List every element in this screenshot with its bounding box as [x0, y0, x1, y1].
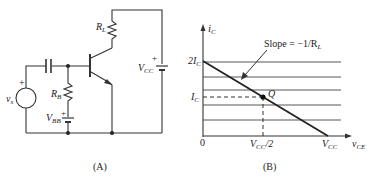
vbb-label: VBB: [46, 112, 61, 125]
source-polarity: +: [19, 77, 25, 88]
load-resistor-label: RL: [95, 21, 106, 34]
x-tick-vcc: VCC: [322, 138, 338, 151]
vcc-polarity: +: [152, 53, 157, 63]
emitter-wire: [110, 83, 112, 133]
q-point-dot: [260, 94, 265, 99]
circuit-diagram: + vs RB + VBB + VCC RL (A): [6, 10, 168, 173]
x-axis-label: vCE: [352, 138, 366, 151]
figure-a-caption: (A): [93, 161, 107, 173]
load-line: [203, 61, 328, 136]
slope-annotation: Slope = −1/RL: [264, 38, 322, 51]
ground-node-dot: [66, 131, 70, 135]
source-label: vs: [6, 93, 13, 106]
y-tick-ic: IC: [190, 91, 199, 104]
vbb-polarity: +: [61, 108, 66, 118]
figure-b-caption: (B): [263, 161, 276, 173]
ground-node-dot: [110, 131, 114, 135]
y-tick-2ic: 2IC: [188, 55, 201, 68]
ac-source-icon: [16, 88, 36, 108]
x-tick-vcc-half: VCC/2: [250, 138, 273, 151]
q-point-label: Q: [268, 88, 276, 99]
figure-canvas: + vs RB + VBB + VCC RL (A): [0, 0, 372, 182]
vcc-label: VCC: [138, 62, 154, 75]
collector-lead: [91, 48, 112, 58]
x-axis-arrow-icon: [345, 134, 352, 139]
source-top-wire: [26, 66, 46, 88]
x-tick-origin: 0: [200, 137, 205, 148]
y-axis-arrow-icon: [201, 24, 206, 31]
slope-arrow-line: [245, 50, 267, 75]
base-resistor-label: RB: [50, 88, 62, 101]
load-line-chart: Q Slope = −1/RL iC vCE 2IC IC 0 VCC/2 VC…: [188, 22, 366, 173]
y-axis-label: iC: [208, 22, 216, 36]
load-resistor-icon: [108, 18, 116, 48]
